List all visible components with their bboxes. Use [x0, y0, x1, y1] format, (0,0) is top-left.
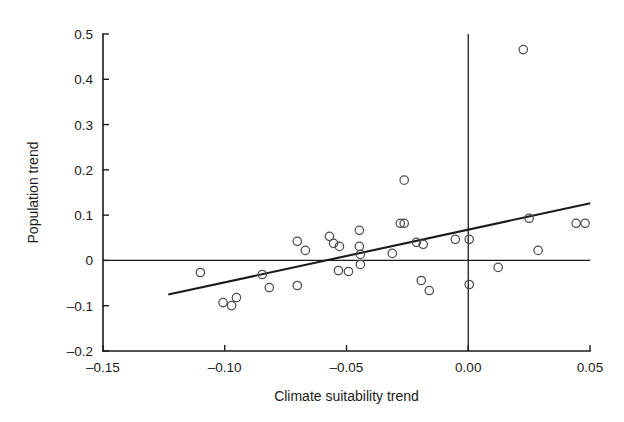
data-point [293, 281, 301, 289]
data-point [572, 219, 580, 227]
y-axis-tick-label: –0.2 [67, 344, 93, 359]
data-point [219, 298, 227, 306]
axes-group [103, 34, 590, 351]
data-point [265, 283, 273, 291]
scatter-plot-figure: –0.2–0.100.10.20.30.40.5–0.15–0.10–0.050… [0, 0, 624, 422]
data-point [301, 246, 309, 254]
data-point [519, 45, 527, 53]
data-point [417, 276, 425, 284]
y-axis-tick-label: 0.2 [74, 163, 93, 178]
x-axis-tick-label: –0.10 [208, 360, 242, 375]
y-axis-tick-label: 0.3 [74, 118, 93, 133]
axis-labels-group: –0.2–0.100.10.20.30.40.5–0.15–0.10–0.050… [25, 27, 603, 404]
data-point [196, 268, 204, 276]
data-point [525, 214, 533, 222]
x-axis-tick-label: –0.05 [330, 360, 364, 375]
data-point [232, 293, 240, 301]
data-point [293, 237, 301, 245]
y-axis-title: Population trend [25, 142, 41, 244]
x-axis-tick-label: 0.00 [455, 360, 481, 375]
y-axis-tick-label: 0.5 [74, 27, 93, 42]
regression-trend-line [168, 203, 590, 294]
data-point [465, 235, 473, 243]
data-point [534, 246, 542, 254]
y-axis-tick-label: 0.4 [74, 72, 93, 87]
data-point [356, 260, 364, 268]
data-points-group [196, 45, 589, 309]
data-point [400, 176, 408, 184]
data-point [425, 286, 433, 294]
reference-lines-group [103, 34, 590, 351]
trend-line-group [168, 203, 590, 294]
x-axis-tick-label: 0.05 [577, 360, 603, 375]
data-point [451, 235, 459, 243]
data-point [344, 267, 352, 275]
data-point [581, 219, 589, 227]
plot-canvas: –0.2–0.100.10.20.30.40.5–0.15–0.10–0.050… [0, 0, 624, 422]
data-point [388, 249, 396, 257]
y-axis-tick-label: 0.1 [74, 208, 93, 223]
data-point [465, 280, 473, 288]
y-axis-tick-label: 0 [85, 253, 93, 268]
y-axis-tick-label: –0.1 [67, 299, 93, 314]
x-axis-title: Climate suitability trend [274, 388, 419, 404]
data-point [355, 226, 363, 234]
data-point [355, 242, 363, 250]
data-point [494, 263, 502, 271]
data-point [334, 266, 342, 274]
data-point [227, 301, 235, 309]
x-axis-tick-label: –0.15 [86, 360, 120, 375]
